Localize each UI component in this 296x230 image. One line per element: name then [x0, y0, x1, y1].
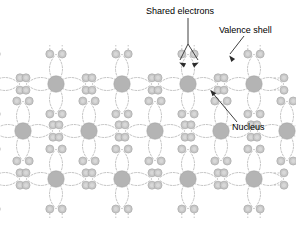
valence-electron-core: [246, 147, 250, 151]
valence-electron-core: [147, 159, 151, 163]
valence-electron-core: [183, 135, 187, 139]
valence-electron-core: [114, 147, 118, 151]
valence-electron-core: [213, 159, 217, 163]
valence-electron-core: [57, 135, 61, 139]
valence-electron-core: [126, 207, 130, 211]
nucleus: [279, 123, 295, 139]
nucleus: [114, 171, 130, 187]
valence-electron-core: [90, 88, 94, 92]
lattice-canvas: Shared electronsValence shellNucleus: [0, 0, 296, 230]
valence-electron-core: [117, 123, 121, 127]
nucleus: [246, 76, 262, 92]
valence-electron-core: [150, 183, 154, 187]
valence-electron-core: [48, 147, 52, 151]
valence-electron-core: [18, 88, 22, 92]
valence-electron-core: [93, 159, 97, 163]
valence-electron-core: [114, 207, 118, 211]
nucleus: [48, 171, 64, 187]
valence-electron-core: [258, 207, 262, 211]
valence-electron-core: [216, 88, 220, 92]
covalent-bonding-diagram: Shared electronsValence shellNucleus: [0, 0, 296, 230]
valence-electron-core: [84, 76, 88, 80]
valence-electron-core: [18, 183, 22, 187]
valence-electron-core: [123, 135, 127, 139]
valence-electron-core: [258, 52, 262, 56]
valence-electron-core: [48, 112, 52, 116]
valence-electron-core: [24, 183, 28, 187]
valence-electron-core: [114, 52, 118, 56]
valence-electron-core: [24, 171, 28, 175]
valence-electron-core: [192, 112, 196, 116]
valence-electron-core: [246, 112, 250, 116]
valence-electron-core: [291, 99, 295, 103]
valence-electron-core: [156, 183, 160, 187]
valence-electron-core: [51, 123, 55, 127]
nucleus: [246, 171, 262, 187]
valence-electron-core: [180, 207, 184, 211]
annotation-label-valence-shell: Valence shell: [219, 25, 272, 35]
valence-electron-core: [57, 123, 61, 127]
valence-electron-core: [282, 183, 286, 187]
arrowhead-shape: [192, 60, 200, 67]
valence-electron-core: [222, 183, 226, 187]
annotation-labels-layer: Shared electronsValence shellNucleus: [146, 6, 272, 132]
valence-electron-core: [51, 135, 55, 139]
valence-electron-core: [24, 76, 28, 80]
valence-electron-core: [24, 88, 28, 92]
valence-electron-core: [126, 52, 130, 56]
valence-electron-core: [279, 159, 283, 163]
valence-electron-core: [60, 52, 64, 56]
valence-electron-core: [258, 112, 262, 116]
valence-electron-core: [150, 76, 154, 80]
annotation-label-shared-electrons: Shared electrons: [146, 6, 215, 16]
valence-electron-core: [90, 183, 94, 187]
valence-electron-core: [81, 159, 85, 163]
valence-electron-core: [189, 123, 193, 127]
valence-electron-core: [18, 76, 22, 80]
valence-electron-core: [279, 99, 283, 103]
valence-electron-core: [60, 112, 64, 116]
leader-line-valence-shell: [230, 36, 244, 54]
valence-electron-core: [48, 52, 52, 56]
valence-electron-core: [291, 159, 295, 163]
nucleus: [114, 76, 130, 92]
valence-electron-core: [282, 171, 286, 175]
valence-electron-core: [213, 99, 217, 103]
valence-electron-core: [123, 123, 127, 127]
valence-electron-core: [249, 135, 253, 139]
valence-electron-core: [84, 171, 88, 175]
valence-electron-core: [216, 76, 220, 80]
valence-electron-core: [246, 52, 250, 56]
valence-electron-core: [93, 99, 97, 103]
valence-electron-core: [15, 159, 19, 163]
valence-electron-core: [84, 88, 88, 92]
valence-electron-core: [27, 99, 31, 103]
valence-electron-core: [27, 159, 31, 163]
nucleus: [180, 76, 196, 92]
arrowhead-shared-electrons: [192, 60, 200, 67]
nucleus: [48, 76, 64, 92]
valence-electron-core: [18, 171, 22, 175]
valence-electron-core: [282, 88, 286, 92]
valence-electron-core: [192, 147, 196, 151]
valence-electron-core: [225, 159, 229, 163]
valence-electron-core: [222, 76, 226, 80]
valence-electron-core: [15, 99, 19, 103]
valence-electron-core: [60, 207, 64, 211]
valence-electron-core: [258, 147, 262, 151]
valence-electron-core: [126, 112, 130, 116]
arrowhead-shape: [227, 54, 235, 62]
valence-electron-core: [183, 123, 187, 127]
valence-electron-core: [156, 88, 160, 92]
arrowhead-valence-shell: [227, 54, 235, 62]
valence-electron-core: [150, 171, 154, 175]
valence-electron-core: [216, 183, 220, 187]
valence-electron-core: [216, 171, 220, 175]
valence-electron-core: [192, 207, 196, 211]
valence-electron-core: [159, 159, 163, 163]
annotation-label-nucleus: Nucleus: [232, 122, 265, 132]
valence-electron-core: [159, 99, 163, 103]
valence-electron-core: [180, 147, 184, 151]
valence-electron-core: [150, 88, 154, 92]
valence-electron-core: [81, 99, 85, 103]
